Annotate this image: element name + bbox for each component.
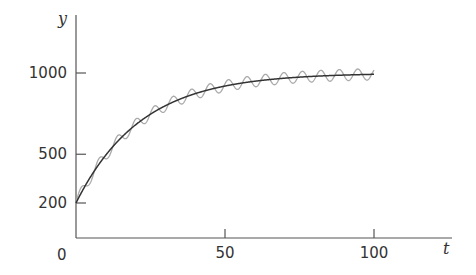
x-tick-label: 50 [215,244,234,262]
y-tick-label: 500 [38,145,67,163]
x-axis-label: t [443,239,450,258]
y-axis-label: y [57,9,68,28]
y-tick-label: 200 [38,194,67,212]
oscillating-curve [76,69,374,203]
y-ticks: 2005001000 [29,64,86,212]
smooth-curve [76,74,374,203]
x-tick-label: 100 [360,244,389,262]
y-tick-label: 1000 [29,64,67,82]
x-ticks: 50100 [215,229,388,262]
origin-label: 0 [57,246,67,264]
chart: 2005001000 50100 y t 0 [0,0,476,275]
